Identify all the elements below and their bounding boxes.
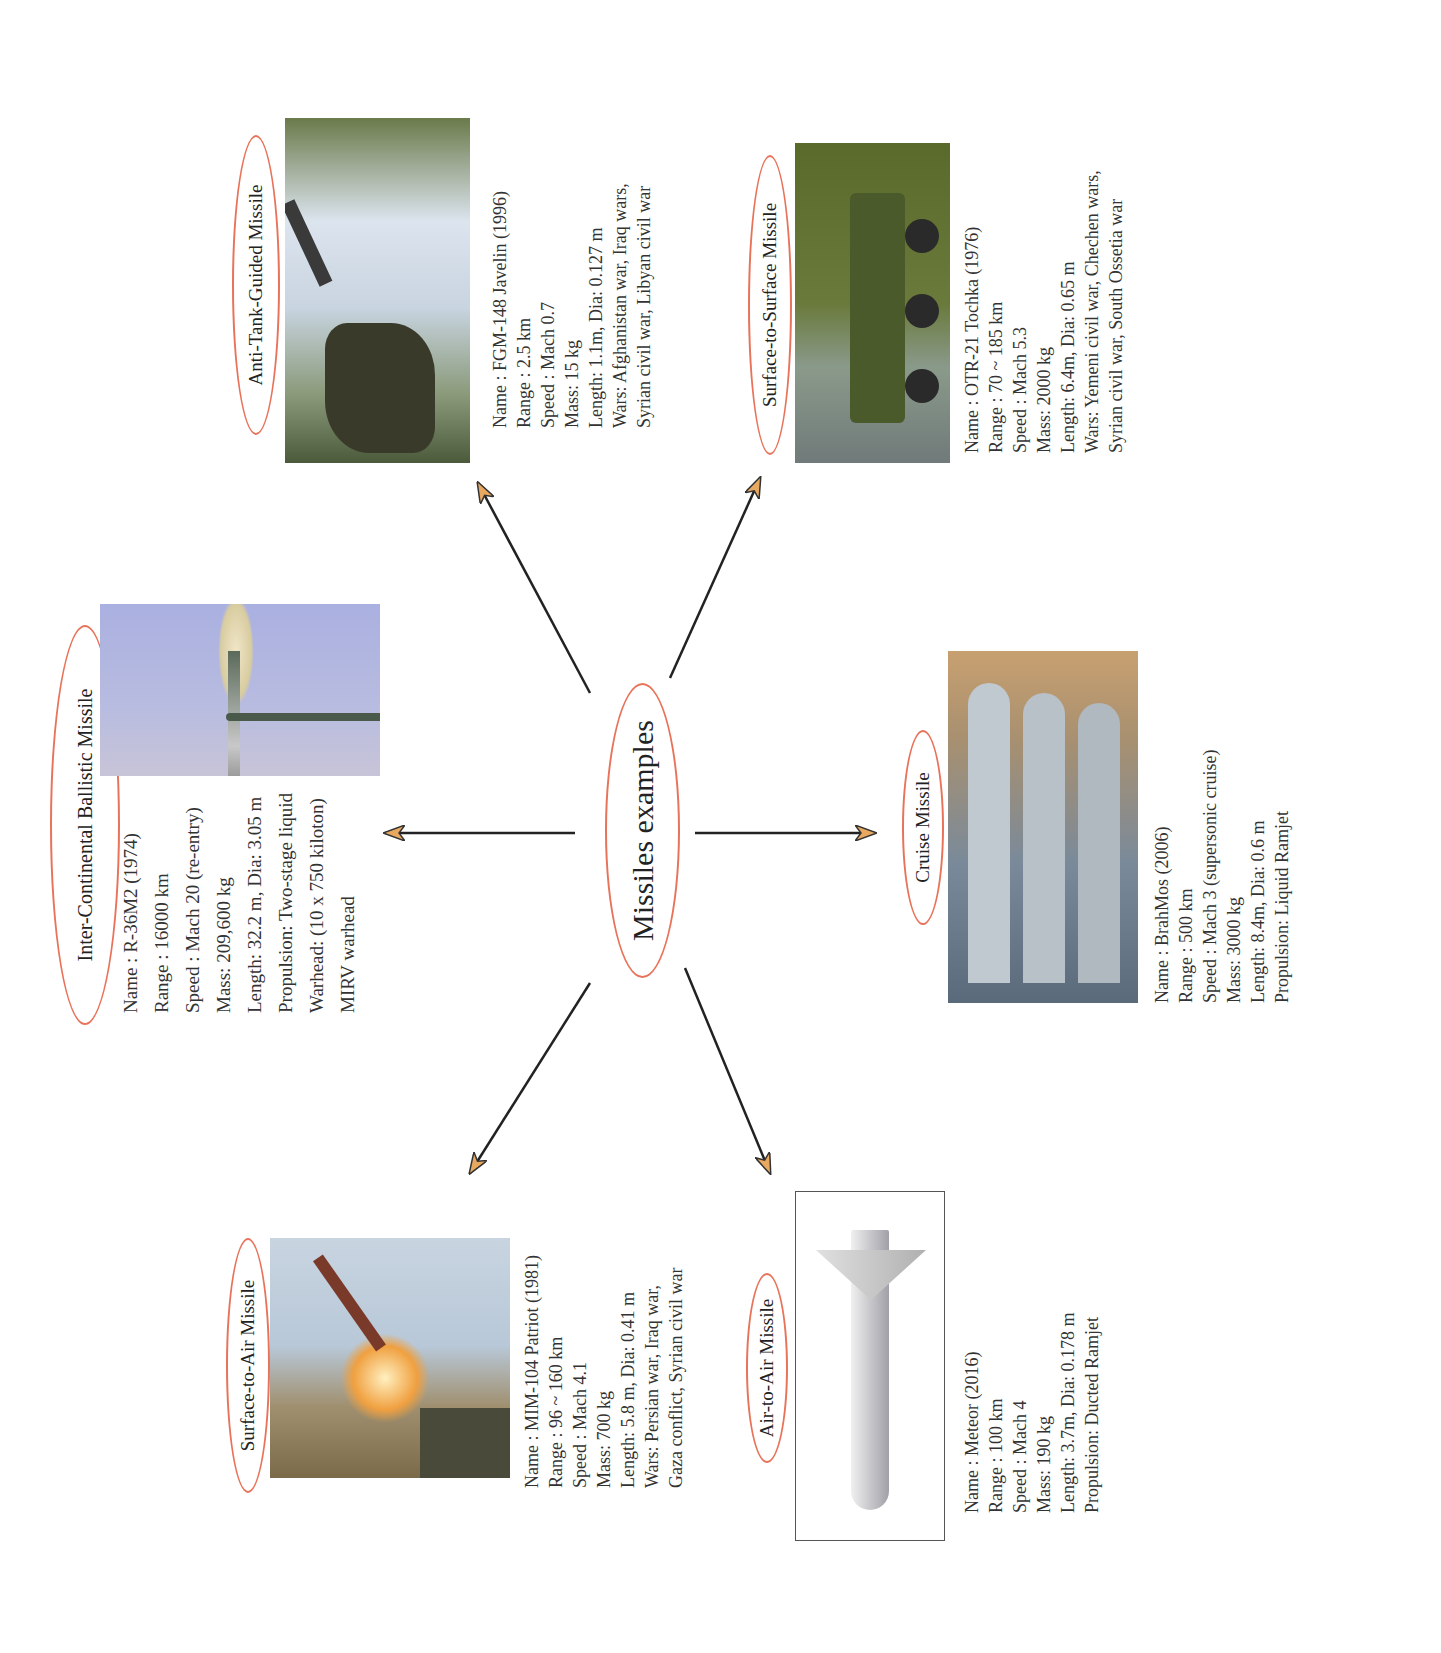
category-label: Inter-Continental Ballistic Missile <box>74 689 97 962</box>
category-label: Surface-to-Surface Missile <box>759 203 781 407</box>
ssm-specs: Name : OTR-21 Tochka (1976) Range : 70 ~… <box>960 170 1128 453</box>
meteor-missile-photo <box>795 1191 945 1541</box>
category-label: Cruise Missile <box>912 772 934 882</box>
missile-body <box>226 713 380 721</box>
tochka-launcher-photo <box>795 143 950 463</box>
brahmos-parade-photo <box>948 651 1138 1003</box>
icbm-specs: Name : R-36M2 (1974) Range : 16000 km Sp… <box>115 793 363 1013</box>
missiles-diagram: Missiles examples Inter-Continental Ball… <box>0 0 1441 1653</box>
arrow-to-atgm <box>478 483 590 693</box>
cruise-specs: Name : BrahMos (2006) Range : 500 km Spe… <box>1150 750 1294 1003</box>
category-atgm: Anti-Tank-Guided Missile <box>232 135 280 435</box>
category-label: Surface-to-Air Missile <box>237 1280 259 1451</box>
category-aam: Air-to-Air Missile <box>746 1273 788 1463</box>
icbm-launch-photo <box>100 604 380 776</box>
aam-specs: Name : Meteor (2016) Range : 100 km Spee… <box>960 1313 1104 1513</box>
category-sam: Surface-to-Air Missile <box>226 1238 270 1493</box>
category-ssm: Surface-to-Surface Missile <box>748 155 792 455</box>
atgm-specs: Name : FGM-148 Javelin (1996) Range : 2.… <box>488 183 656 428</box>
arrow-to-sam <box>470 983 590 1173</box>
category-label: Anti-Tank-Guided Missile <box>245 185 267 386</box>
arrow-to-ssm <box>670 478 760 678</box>
center-label: Missiles examples <box>626 720 660 941</box>
category-label: Air-to-Air Missile <box>756 1299 778 1437</box>
center-node: Missiles examples <box>605 683 680 978</box>
sam-specs: Name : MIM-104 Patriot (1981) Range : 96… <box>520 1255 688 1488</box>
javelin-soldier-photo <box>285 118 470 463</box>
category-cruise: Cruise Missile <box>902 730 944 925</box>
arrow-to-aam <box>685 968 770 1173</box>
patriot-launch-photo <box>270 1238 510 1478</box>
